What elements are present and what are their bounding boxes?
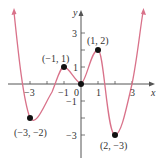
y-axis-label: y: [72, 7, 78, 18]
point-label: (2, −3): [100, 140, 127, 152]
y-tick-label: −3: [66, 130, 77, 141]
right-end-arrow-icon: [141, 8, 146, 15]
point-1-2: [95, 47, 101, 53]
x-tick-label: 3: [130, 87, 135, 98]
y-tick-label: 1: [73, 62, 78, 73]
x-axis-label: x: [150, 87, 156, 98]
point-label: (−1, 1): [42, 53, 69, 65]
function-graph: y x −3 −1 0 1 3 3 1 −1 −3 (−3, −2) (−1, …: [0, 0, 157, 166]
x-tick-label: 1: [96, 87, 101, 98]
point-label: (1, 2): [87, 35, 109, 47]
y-axis-arrow-icon: [79, 10, 84, 16]
left-end-arrow-icon: [12, 8, 17, 15]
x-axis-arrow-icon: [149, 82, 155, 87]
point-minus3-minus2: [27, 115, 33, 121]
point-2-minus3: [112, 132, 118, 138]
x-tick-label: −3: [24, 87, 35, 98]
point-label: (−3, −2): [14, 127, 47, 139]
point-minus1-1: [61, 64, 67, 70]
y-tick-label: 3: [72, 28, 77, 39]
marked-points: [27, 47, 118, 138]
y-tick-label: −1: [66, 96, 77, 107]
